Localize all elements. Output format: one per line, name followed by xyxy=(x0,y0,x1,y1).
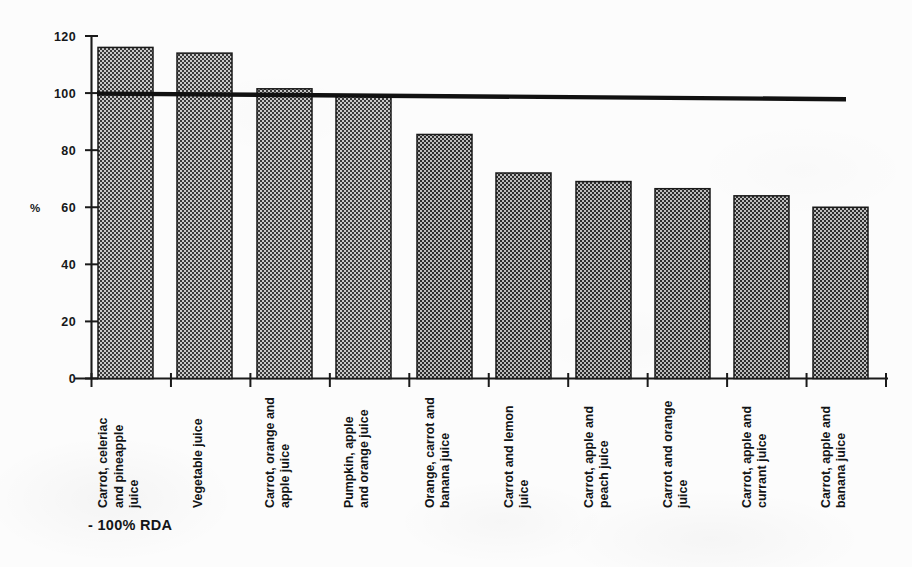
bar xyxy=(257,89,312,379)
category-label-line: banana juice xyxy=(834,433,848,508)
bar xyxy=(655,189,710,379)
x-axis-category-labels: Carrot, celeriacand pineapplejuiceVegeta… xyxy=(96,397,848,509)
category-label-line: Vegetable juice xyxy=(191,418,205,508)
category-label: Carrot, apple andpeach juice xyxy=(582,406,612,508)
category-label-line: juice xyxy=(517,480,531,509)
category-label: Carrot and lemonjuice xyxy=(502,405,532,509)
bar-rect xyxy=(257,89,312,379)
y-tick-label-100: 100 xyxy=(54,87,76,101)
category-label-line: banana juice xyxy=(438,433,452,508)
y-axis-tick-labels: 020406080100120 xyxy=(54,30,76,387)
y-tick-label-0: 0 xyxy=(69,372,76,386)
bar-rect xyxy=(336,96,391,379)
category-label-line: and orange juice xyxy=(357,409,371,508)
category-label: Carrot, apple andcurrant juice xyxy=(740,406,770,508)
bar-rect xyxy=(655,189,710,379)
category-label-line: peach juice xyxy=(597,440,611,508)
chart-canvas: 020406080100120 % Carrot, celeriacand pi… xyxy=(0,0,912,567)
category-label-line: Pumpkin, apple xyxy=(342,416,356,508)
bar-rect xyxy=(417,134,472,378)
y-axis-title: % xyxy=(30,202,40,214)
bar-rect xyxy=(576,182,631,379)
category-label: Carrot, orange andapple juice xyxy=(263,397,293,508)
y-axis: 020406080100120 % xyxy=(30,30,98,387)
category-label: Orange, carrot andbanana juice xyxy=(423,397,453,508)
category-label-line: apple juice xyxy=(278,444,292,508)
category-label-line: Carrot, apple and xyxy=(582,406,596,508)
bar-rect xyxy=(98,47,153,378)
category-label-line: Carrot, orange and xyxy=(263,397,277,508)
category-label-line: currant juice xyxy=(755,433,769,508)
bar xyxy=(177,53,232,378)
category-label: Vegetable juice xyxy=(191,418,205,508)
bar xyxy=(813,207,868,378)
category-label-line: Carrot, apple and xyxy=(740,406,754,508)
chart-legend: - 100% RDA xyxy=(88,517,173,533)
bar xyxy=(734,196,789,379)
category-label-line: Orange, carrot and xyxy=(423,397,437,508)
category-label-line: juice xyxy=(127,480,141,509)
category-label-line: Carrot, celeriac xyxy=(96,418,110,508)
category-label: Pumpkin, appleand orange juice xyxy=(342,409,372,508)
category-label-line: juice xyxy=(676,480,690,509)
bar-rect xyxy=(813,207,868,378)
y-tick-label-20: 20 xyxy=(61,315,76,329)
y-tick-label-60: 60 xyxy=(61,201,76,215)
category-label: Carrot and orangejuice xyxy=(661,400,691,509)
bar xyxy=(336,96,391,379)
bar xyxy=(576,182,631,379)
bar-rect xyxy=(734,196,789,379)
category-label-line: and pineapple xyxy=(112,425,126,508)
category-label: Carrot, celeriacand pineapplejuice xyxy=(96,418,141,509)
bar xyxy=(98,47,153,378)
bar xyxy=(496,173,551,379)
category-label: Carrot, apple andbanana juice xyxy=(819,406,849,508)
category-label-line: Carrot and lemon xyxy=(502,405,516,508)
bar-rect xyxy=(496,173,551,379)
category-label-line: Carrot, apple and xyxy=(819,406,833,508)
y-tick-label-120: 120 xyxy=(54,30,76,44)
bar-chart-figure: 020406080100120 % Carrot, celeriacand pi… xyxy=(0,0,912,567)
y-tick-label-80: 80 xyxy=(61,144,76,158)
bar-rect xyxy=(177,53,232,378)
legend-entry-label: - 100% RDA xyxy=(88,517,173,533)
y-tick-label-40: 40 xyxy=(61,258,76,272)
bar xyxy=(417,134,472,378)
category-label-line: Carrot and orange xyxy=(661,400,675,508)
